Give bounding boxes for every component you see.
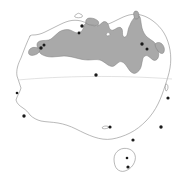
tasmania-outline xyxy=(114,148,135,171)
city-darwin xyxy=(80,24,83,27)
kangaroo-island-outline xyxy=(102,126,108,129)
distribution-map-figure xyxy=(0,0,185,176)
groote-eylandt-outline xyxy=(106,33,110,36)
fraser-island-outline xyxy=(165,84,168,91)
city-townsville xyxy=(146,48,149,51)
city-sydney xyxy=(159,125,162,128)
city-alice-springs xyxy=(94,73,97,76)
city-katherine xyxy=(78,32,81,35)
city-cairns xyxy=(140,42,143,45)
melville-island-outline xyxy=(75,13,83,18)
city-geraldton xyxy=(16,92,19,95)
range-cape-york-tip xyxy=(134,11,139,19)
range-arnhem-north xyxy=(86,18,99,25)
city-perth xyxy=(22,114,25,117)
city-brisbane xyxy=(166,96,169,99)
city-broome xyxy=(39,46,42,49)
map-canvas xyxy=(0,0,185,176)
city-hobart xyxy=(126,165,129,168)
city-derby xyxy=(43,44,46,47)
city-launceston xyxy=(126,157,129,160)
city-adelaide xyxy=(108,125,111,128)
city-melbourne xyxy=(131,138,134,141)
